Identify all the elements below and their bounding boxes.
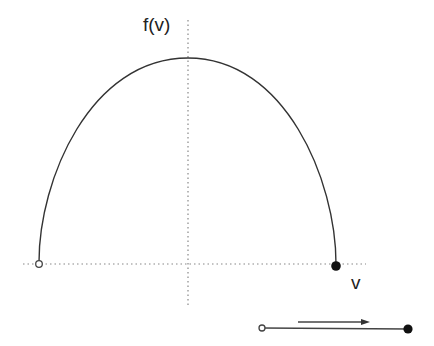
diagram-canvas: [0, 0, 434, 346]
y-axis-label: f(v): [143, 14, 170, 36]
open-endpoint-icon: [36, 261, 43, 268]
x-axis-label: v: [351, 272, 361, 294]
number-line: [262, 328, 408, 329]
filled-endpoint-icon: [331, 261, 341, 271]
number-line-filled-endpoint-icon: [403, 324, 412, 333]
number-line-open-endpoint-icon: [259, 325, 265, 331]
arrow-head-icon: [361, 319, 370, 325]
